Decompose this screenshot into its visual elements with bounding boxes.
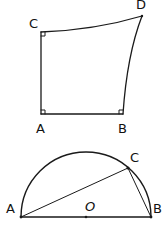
geometry-diagram: C D A B A B C O [0,0,167,225]
label-o: O [85,199,95,214]
point-o [85,216,88,219]
figure-quadrilateral: C D A B [29,0,146,136]
point-c [126,166,129,169]
figure-semicircle: A B C O [6,150,162,218]
label-b: B [118,121,127,136]
chord-cb [128,168,151,217]
label-a: A [36,121,45,136]
point-a [20,216,23,219]
label-d: D [136,0,146,12]
label-c: C [29,16,38,31]
label-a2: A [6,201,15,216]
point-b [150,216,153,219]
chord-ac [21,168,128,217]
label-c2: C [130,150,139,165]
point-d [141,15,143,17]
label-b2: B [153,201,162,216]
side-cd [41,16,142,32]
side-bd [123,16,142,114]
